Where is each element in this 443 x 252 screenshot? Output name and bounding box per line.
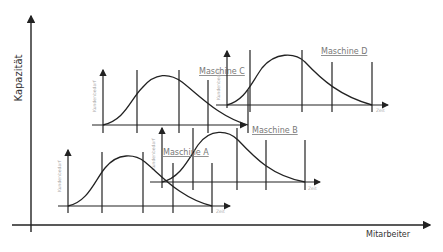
x-axis-label: Mitarbeiter [366, 230, 411, 239]
capacity-diagram: Kapazität Mitarbeiter Kundenbedarf Masch… [0, 0, 443, 252]
svg-text:Kundenbedarf: Kundenbedarf [92, 80, 97, 112]
svg-text:Zeit: Zeit [308, 186, 317, 191]
maschine-b-label: Maschine B [252, 126, 298, 135]
graph-maschine-b: Kundenbedarf Zeit Maschine B [150, 126, 320, 191]
svg-text:Zeit: Zeit [216, 209, 225, 214]
graph-maschine-a: Kundenbedarf Zeit Maschine A [57, 148, 230, 214]
graph-maschine-d: Kundenbedarf Zeit Maschine D [216, 47, 388, 113]
svg-text:Kundenbedarf: Kundenbedarf [57, 160, 62, 192]
svg-text:Kundenbedarf: Kundenbedarf [151, 138, 156, 170]
maschine-c-label: Maschine C [199, 67, 245, 76]
graph-maschine-c: Kundenbedarf Maschine C [92, 67, 248, 133]
y-axis-label: Kapazität [13, 54, 24, 101]
svg-text:Zeit: Zeit [376, 108, 385, 113]
maschine-d-label: Maschine D [321, 47, 367, 56]
maschine-a-label: Maschine A [163, 148, 209, 157]
svg-text:Kundenbedarf: Kundenbedarf [216, 68, 221, 100]
